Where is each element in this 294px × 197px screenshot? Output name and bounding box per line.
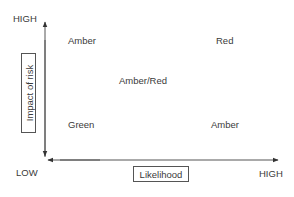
quadrant-bottom-right: Amber — [211, 119, 239, 130]
x-axis-label-box: Likelihood — [133, 166, 189, 182]
quadrant-bottom-left: Green — [68, 119, 94, 130]
quadrant-top-left: Amber — [68, 35, 96, 46]
origin-low-label: LOW — [16, 167, 38, 178]
y-axis-label: Impact of risk — [23, 65, 34, 122]
y-axis-label-box: Impact of risk — [21, 53, 36, 133]
quadrant-top-right: Red — [216, 35, 233, 46]
y-axis-high-label: HIGH — [13, 13, 37, 24]
x-axis-high-label: HIGH — [259, 168, 283, 179]
x-axis-label: Likelihood — [140, 169, 183, 180]
quadrant-center: Amber/Red — [119, 75, 167, 86]
